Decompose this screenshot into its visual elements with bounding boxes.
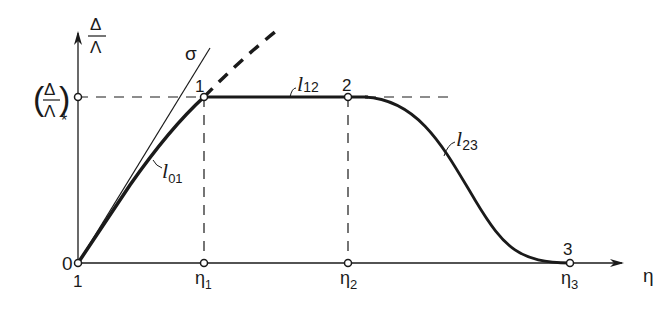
y-axis-label-numerator: Δ [90,15,101,34]
eta1-point [201,260,208,267]
point-3-label: 3 [563,240,572,259]
point-3 [567,260,574,267]
origin-point [75,260,82,267]
eta3-label: η3 [561,268,578,292]
sigma-label: σ [185,43,197,64]
curve-l01-label: l01 [162,158,183,186]
critical-label-subscript: * [61,112,67,129]
curve-l12-label: l12 [297,71,319,96]
y-axis-label-denominator: Λ [90,38,102,57]
curve-l01 [78,97,204,263]
point-2-label: 2 [342,76,351,95]
origin-x-label: 1 [73,272,82,291]
eta2-point [345,260,352,267]
x-axis-label: η [643,265,654,286]
eta2-label: η2 [340,268,357,292]
critical-label-numerator: Δ [44,80,55,99]
curve-extension-dashed [204,32,275,97]
l01-leader [153,160,162,168]
eta1-label: η1 [195,268,212,292]
origin-y-label: 0 [62,253,73,274]
critical-level-point [75,94,82,101]
diagram-canvas: Δ Λ ( Δ Λ ) * 0 1 η1 η2 η3 η 1 2 3 σ l01… [0,0,661,317]
point-1-label: 1 [195,77,204,96]
curve-l23 [365,97,570,263]
critical-label-denominator: Λ [44,102,56,121]
curve-l23-label: l23 [456,126,478,153]
